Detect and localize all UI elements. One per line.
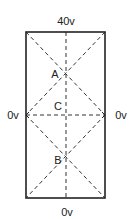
diagram-canvas: 40v 0v 0v 0v A C B [0, 0, 132, 219]
bottom-boundary-label: 0v [61, 206, 73, 218]
point-label-c: C [54, 100, 62, 112]
point-label-b: B [54, 154, 61, 166]
point-label-a: A [51, 68, 59, 80]
top-boundary-label: 40v [57, 15, 75, 27]
right-boundary-label: 0v [115, 109, 127, 121]
left-boundary-label: 0v [7, 109, 19, 121]
